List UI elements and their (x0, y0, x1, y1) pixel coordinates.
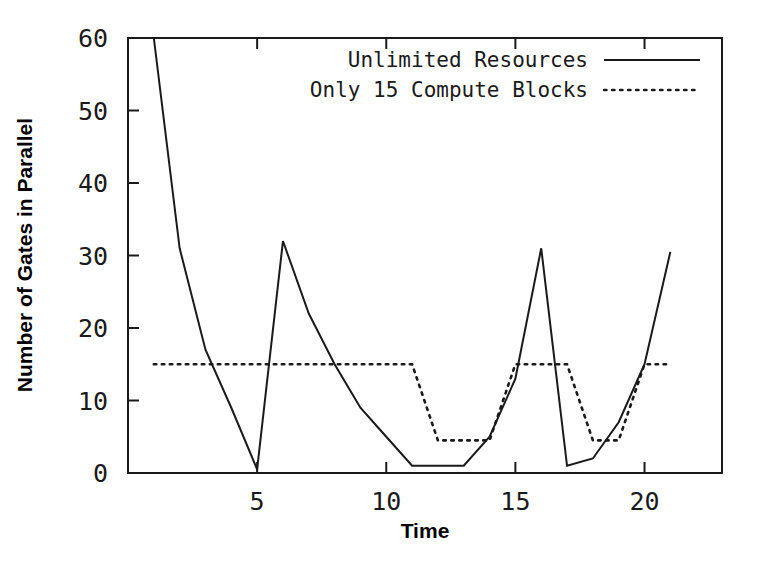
legend-label-only-15-compute-blocks: Only 15 Compute Blocks (310, 78, 588, 102)
chart-legend: Unlimited Resources Only 15 Compute Bloc… (310, 48, 700, 102)
x-tick-label: 20 (629, 487, 659, 516)
chart-container: 0102030405060 5101520 Time Number of Gat… (0, 0, 758, 578)
y-axis-title: Number of Gates in Parallel (13, 118, 36, 392)
y-tick-label: 60 (78, 24, 108, 53)
x-axis-tick-labels: 5101520 (250, 487, 660, 516)
line-chart: 0102030405060 5101520 Time Number of Gat… (0, 0, 758, 578)
x-axis-title: Time (401, 519, 450, 542)
y-tick-label: 30 (78, 242, 108, 271)
data-series-layer (154, 38, 671, 469)
y-axis-tick-labels: 0102030405060 (78, 24, 108, 488)
y-tick-label: 50 (78, 97, 108, 126)
x-tick-label: 5 (250, 487, 265, 516)
x-tick-label: 10 (371, 487, 401, 516)
y-tick-label: 0 (93, 459, 108, 488)
x-axis-ticks (257, 38, 644, 473)
y-tick-label: 40 (78, 169, 108, 198)
series-line-unlimited-resources (154, 38, 671, 469)
legend-label-unlimited-resources: Unlimited Resources (348, 48, 588, 72)
plot-frame (128, 38, 722, 473)
y-tick-label: 10 (78, 387, 108, 416)
y-tick-label: 20 (78, 314, 108, 343)
x-tick-label: 15 (500, 487, 530, 516)
y-axis-ticks (128, 111, 139, 401)
series-line-only-15-compute-blocks (154, 364, 671, 440)
